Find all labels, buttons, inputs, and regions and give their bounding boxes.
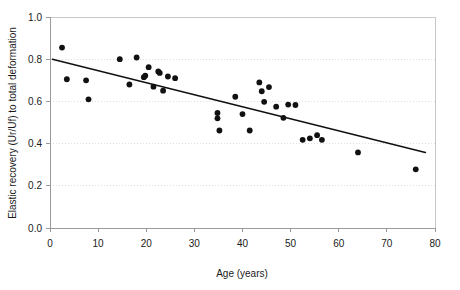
data-point bbox=[413, 166, 419, 172]
data-point bbox=[293, 102, 299, 108]
x-tick-label: 60 bbox=[333, 238, 345, 249]
y-axis-title: Elastic recovery (Ur/Uf) to total deform… bbox=[7, 27, 18, 219]
data-point bbox=[146, 64, 152, 70]
data-point bbox=[319, 137, 325, 143]
data-point bbox=[157, 70, 163, 76]
data-point bbox=[232, 94, 238, 100]
data-point bbox=[217, 128, 223, 134]
data-point bbox=[172, 75, 178, 81]
data-point bbox=[134, 55, 140, 61]
plot-frame bbox=[50, 17, 435, 228]
x-tick-label: 10 bbox=[93, 238, 105, 249]
y-tick-label: 0.8 bbox=[28, 54, 42, 65]
x-tick-label: 70 bbox=[381, 238, 393, 249]
data-point bbox=[355, 150, 361, 156]
data-point bbox=[273, 104, 279, 110]
data-point bbox=[160, 88, 166, 94]
data-point bbox=[240, 111, 246, 117]
trend-line bbox=[52, 59, 425, 152]
data-points bbox=[59, 45, 419, 173]
data-point bbox=[285, 102, 291, 108]
x-tick-labels: 01020304050607080 bbox=[47, 238, 441, 249]
y-tick-label: 0.6 bbox=[28, 96, 42, 107]
data-point bbox=[86, 96, 92, 102]
x-tick-label: 0 bbox=[47, 238, 53, 249]
x-tick-label: 40 bbox=[237, 238, 249, 249]
y-tick-labels: 0.00.20.40.60.81.0 bbox=[28, 12, 42, 234]
x-axis-title: Age (years) bbox=[216, 268, 268, 279]
tick-marks bbox=[46, 17, 435, 232]
x-tick-label: 30 bbox=[189, 238, 201, 249]
chart-figure: 01020304050607080 0.00.20.40.60.81.0 Age… bbox=[0, 0, 460, 290]
data-point bbox=[127, 82, 133, 88]
data-point bbox=[142, 73, 148, 79]
data-point bbox=[266, 84, 272, 90]
gridlines bbox=[50, 17, 435, 186]
y-tick-label: 0.4 bbox=[28, 138, 42, 149]
data-point bbox=[259, 88, 265, 94]
y-tick-label: 1.0 bbox=[28, 12, 42, 23]
data-point bbox=[83, 77, 89, 83]
data-point bbox=[165, 74, 171, 80]
scatter-plot: 01020304050607080 0.00.20.40.60.81.0 Age… bbox=[0, 0, 460, 290]
data-point bbox=[300, 137, 306, 143]
x-tick-label: 50 bbox=[285, 238, 297, 249]
regression-line bbox=[52, 59, 425, 152]
data-point bbox=[247, 128, 253, 134]
data-point bbox=[117, 56, 123, 62]
data-point bbox=[64, 76, 70, 82]
data-point bbox=[261, 99, 267, 105]
y-tick-label: 0.2 bbox=[28, 180, 42, 191]
data-point bbox=[314, 132, 320, 138]
data-point bbox=[256, 80, 262, 86]
data-point bbox=[215, 115, 221, 121]
x-tick-label: 20 bbox=[141, 238, 153, 249]
data-point bbox=[307, 135, 313, 141]
y-tick-label: 0.0 bbox=[28, 223, 42, 234]
data-point bbox=[59, 45, 65, 51]
x-tick-label: 80 bbox=[429, 238, 441, 249]
data-point bbox=[215, 110, 221, 116]
